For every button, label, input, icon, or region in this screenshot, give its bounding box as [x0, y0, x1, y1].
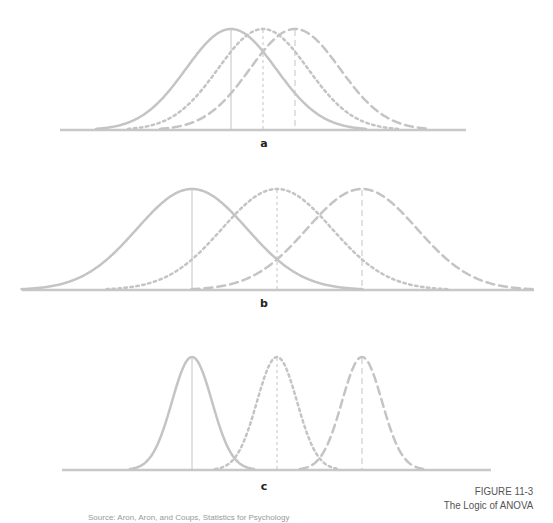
footnote: Source: Aron, Aron, and Coups, Statistic…: [88, 513, 289, 522]
caption-title: FIGURE 11-3: [444, 484, 533, 498]
panel-label-c: c: [261, 480, 268, 493]
panel-label-b: b: [260, 297, 268, 310]
figure-caption: FIGURE 11-3 The Logic of ANOVA: [444, 484, 533, 512]
caption-subtitle: The Logic of ANOVA: [444, 498, 533, 512]
panel-label-a: a: [260, 137, 267, 150]
anova-figure: [0, 0, 553, 523]
